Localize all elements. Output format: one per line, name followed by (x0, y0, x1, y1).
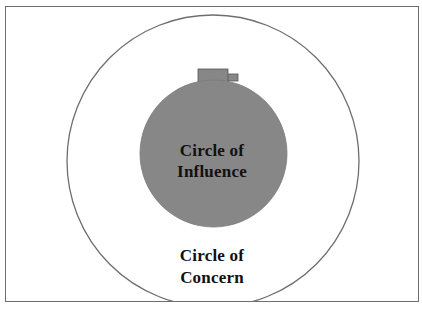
influence-label-line2: Influence (147, 161, 277, 182)
influence-label-line1: Circle of (147, 140, 277, 161)
knob-small-tab (227, 74, 238, 81)
circle-of-influence-label: Circle of Influence (147, 140, 277, 182)
concern-label-line2: Concern (147, 267, 277, 289)
concern-label-line1: Circle of (147, 245, 277, 267)
circle-of-concern-label: Circle of Concern (147, 245, 277, 289)
diagram-frame: Circle of Influence Circle of Concern (5, 6, 419, 302)
